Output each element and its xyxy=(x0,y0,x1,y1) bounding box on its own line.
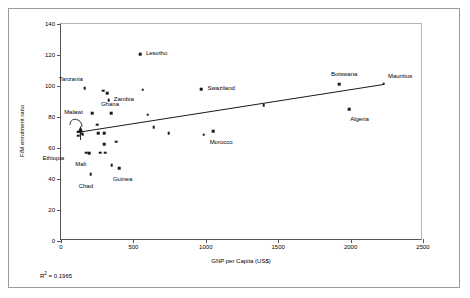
point-label-algeria: Algeria xyxy=(350,116,369,122)
data-point xyxy=(168,132,171,135)
y-tick-label-60: 60 xyxy=(48,145,55,151)
data-point xyxy=(115,141,118,144)
data-point-ethiopia xyxy=(77,134,80,137)
y-tick-label-40: 40 xyxy=(48,176,55,182)
point-label-swaziland: Swaziland xyxy=(207,85,234,91)
data-point xyxy=(212,130,215,133)
point-label-botswana: Botswana xyxy=(331,71,357,77)
x-tick-2500 xyxy=(423,239,424,243)
data-point xyxy=(103,132,106,135)
x-tick-label-1500: 1500 xyxy=(272,244,285,250)
data-point xyxy=(106,92,109,95)
x-tick-label-2000: 2000 xyxy=(344,244,357,250)
x-tick-label-0: 0 xyxy=(59,244,62,250)
data-point xyxy=(103,143,106,146)
data-point xyxy=(262,104,265,107)
y-tick-label-80: 80 xyxy=(48,114,55,120)
point-label-mauritius: Mauritius xyxy=(388,73,412,79)
x-tick-label-2500: 2500 xyxy=(416,244,429,250)
point-label-lesotho: Lesotho xyxy=(146,50,167,56)
r-squared-annotation: R2 = 0.1965 xyxy=(40,271,72,279)
data-point-mali xyxy=(88,152,91,155)
data-point xyxy=(99,151,102,154)
data-point-tanzania xyxy=(84,87,87,90)
data-point xyxy=(142,89,145,92)
ethiopia-pointer-annotation xyxy=(61,24,423,241)
point-label-ethiopia: Ethiopia xyxy=(42,155,64,161)
data-point-mauritius xyxy=(383,82,386,85)
data-point-botswana xyxy=(338,83,341,86)
x-axis-title: GNP per Capita (US$) xyxy=(211,258,271,264)
data-point-chad xyxy=(89,173,92,176)
y-tick-label-100: 100 xyxy=(45,83,55,89)
scatter-plot-figure: 020406080100120140 05001000150020002500 … xyxy=(0,0,470,298)
data-point xyxy=(102,89,105,92)
point-label-malawi: Malawi xyxy=(64,109,83,115)
x-tick-label-500: 500 xyxy=(128,244,138,250)
data-point-ghana xyxy=(110,112,113,115)
point-label-mali: Mali xyxy=(75,161,86,167)
point-label-ghana: Ghana xyxy=(101,101,119,107)
data-point-algeria xyxy=(348,108,351,111)
data-point-swaziland xyxy=(200,88,203,91)
data-point xyxy=(104,151,107,154)
data-point xyxy=(81,133,84,136)
x-tick-label-1000: 1000 xyxy=(199,244,212,250)
point-label-chad: Chad xyxy=(79,183,93,189)
data-point xyxy=(96,123,99,126)
data-point-lesotho xyxy=(139,53,142,56)
data-point xyxy=(147,113,150,116)
y-axis-title: F/M enrolment ratio xyxy=(19,105,25,157)
y-tick-label-20: 20 xyxy=(48,207,55,213)
y-tick-label-120: 120 xyxy=(45,52,55,58)
point-label-morocco: Morocco xyxy=(210,139,233,145)
data-point-guinea xyxy=(118,167,121,170)
data-point xyxy=(97,132,100,135)
y-tick-label-140: 140 xyxy=(45,21,55,27)
data-point-morocco xyxy=(202,134,205,137)
point-label-tanzania: Tanzania xyxy=(59,76,83,82)
r-squared-value: = 0.1965 xyxy=(47,273,72,279)
data-point xyxy=(152,126,155,129)
data-point-malawi xyxy=(91,112,94,115)
point-label-guinea: Guinea xyxy=(113,176,132,182)
plot-area: 020406080100120140 05001000150020002500 … xyxy=(60,23,422,240)
data-point xyxy=(110,164,113,167)
y-tick-label-0: 0 xyxy=(52,238,55,244)
